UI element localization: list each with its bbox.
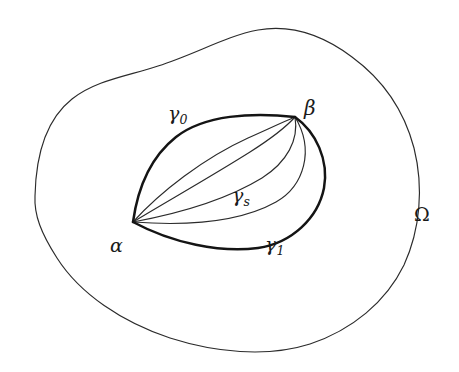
gamma-s-label: γs (232, 186, 250, 208)
gamma-s-curve-4 (133, 117, 305, 223)
alpha-point-label: α (110, 236, 123, 255)
figure-canvas: γ0 γ1 γs α β Ω (0, 0, 459, 372)
gamma-1-label-base: γ (265, 233, 276, 255)
gamma-s-curve-3 (133, 117, 296, 222)
diagram-svg (0, 0, 459, 372)
gamma-s-curve-1 (133, 117, 295, 222)
gamma-s-label-base: γ (232, 184, 243, 206)
omega-boundary-path (35, 28, 420, 352)
gamma-0-label: γ0 (168, 104, 188, 126)
omega-domain-label: Ω (414, 205, 430, 224)
gamma-0-label-base: γ (168, 102, 179, 124)
gamma-s-curve-2 (133, 117, 295, 222)
gamma-1-label: γ1 (265, 235, 285, 257)
beta-point-label: β (304, 98, 316, 118)
gamma-1-label-subscript: 1 (277, 243, 285, 258)
gamma-0-curve (133, 115, 295, 222)
gamma-0-label-subscript: 0 (180, 112, 188, 127)
gamma-s-label-subscript: s (244, 194, 250, 209)
